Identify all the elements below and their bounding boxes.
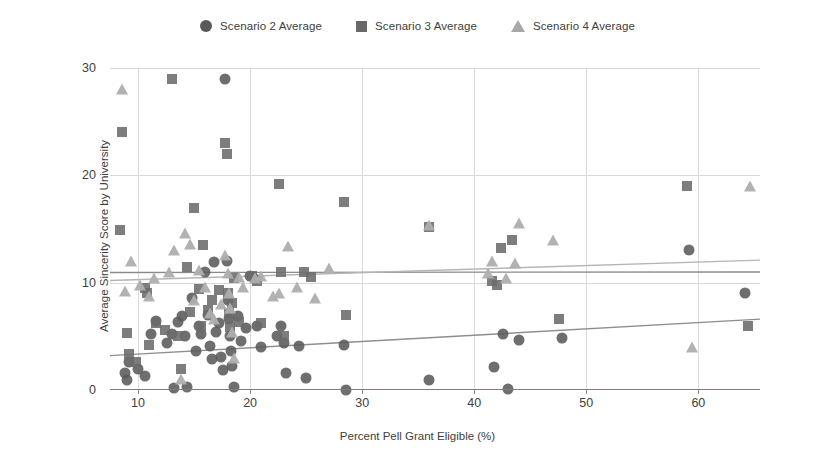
data-point-square xyxy=(160,325,170,335)
x-axis-tick-mark xyxy=(474,390,475,394)
x-axis-tick-label: 20 xyxy=(230,396,270,410)
legend-item-scenario-3: Scenario 3 Average xyxy=(356,20,477,32)
data-point-square xyxy=(220,138,230,148)
data-point-square xyxy=(222,149,232,159)
data-point-square xyxy=(189,203,199,213)
circle-marker-icon xyxy=(200,20,212,32)
data-point-circle xyxy=(498,329,509,340)
data-point-triangle xyxy=(163,266,175,277)
data-point-square xyxy=(196,321,206,331)
x-axis-tick-label: 10 xyxy=(118,396,158,410)
data-point-triangle xyxy=(224,303,236,314)
data-point-triangle xyxy=(291,281,303,292)
x-axis-tick-label: 30 xyxy=(342,396,382,410)
data-point-triangle xyxy=(226,327,238,338)
data-point-square xyxy=(279,331,289,341)
data-point-triangle xyxy=(219,249,231,260)
legend-label-scenario-2: Scenario 2 Average xyxy=(220,20,322,32)
data-point-square xyxy=(306,272,316,282)
data-point-triangle xyxy=(423,219,435,230)
legend-label-scenario-4: Scenario 4 Average xyxy=(533,20,635,32)
x-axis-tick-mark xyxy=(362,390,363,394)
data-point-triangle xyxy=(500,273,512,284)
data-point-circle xyxy=(220,73,231,84)
data-point-triangle xyxy=(222,268,234,279)
data-point-square xyxy=(341,310,351,320)
data-point-square xyxy=(198,240,208,250)
data-point-square xyxy=(185,307,195,317)
data-point-triangle xyxy=(199,281,211,292)
data-point-square xyxy=(167,74,177,84)
data-point-circle xyxy=(684,245,695,256)
data-point-square xyxy=(115,225,125,235)
data-point-circle xyxy=(146,329,157,340)
data-point-square xyxy=(554,314,564,324)
chart-legend: Scenario 2 Average Scenario 3 Average Sc… xyxy=(0,20,835,32)
y-axis-tick-label: 0 xyxy=(56,383,96,397)
data-point-triangle xyxy=(744,181,756,192)
square-marker-icon xyxy=(356,21,367,32)
triangle-marker-icon xyxy=(511,20,525,32)
data-point-triangle xyxy=(116,84,128,95)
x-axis-tick-mark xyxy=(250,390,251,394)
data-point-circle xyxy=(341,385,352,396)
data-point-triangle xyxy=(125,256,137,267)
data-point-triangle xyxy=(134,279,146,290)
data-point-triangle xyxy=(482,268,494,279)
data-point-triangle xyxy=(143,290,155,301)
data-point-triangle xyxy=(228,352,240,363)
data-point-triangle xyxy=(282,241,294,252)
data-point-square xyxy=(117,127,127,137)
legend-label-scenario-3: Scenario 3 Average xyxy=(375,20,477,32)
legend-item-scenario-2: Scenario 2 Average xyxy=(200,20,322,32)
data-point-circle xyxy=(301,373,312,384)
data-point-triangle xyxy=(255,271,267,282)
data-point-circle xyxy=(121,375,132,386)
data-point-triangle xyxy=(509,258,521,269)
data-point-circle xyxy=(424,375,435,386)
data-point-circle xyxy=(294,340,305,351)
data-point-circle xyxy=(514,334,525,345)
data-point-triangle xyxy=(513,217,525,228)
data-point-triangle xyxy=(323,262,335,273)
y-axis-title: Average Sincerity Score by University xyxy=(98,139,110,331)
x-axis-tick-label: 50 xyxy=(566,396,606,410)
y-axis-tick-label: 10 xyxy=(56,276,96,290)
y-axis-tick-label: 30 xyxy=(56,61,96,75)
data-point-circle xyxy=(339,339,350,350)
data-point-square xyxy=(173,331,183,341)
data-point-circle xyxy=(556,333,567,344)
data-point-square xyxy=(176,364,186,374)
plot-area: 0102030102030405060 xyxy=(110,68,760,390)
data-point-triangle xyxy=(193,264,205,275)
x-axis-line xyxy=(110,389,760,391)
data-point-circle xyxy=(489,362,500,373)
data-point-circle xyxy=(256,342,267,353)
x-axis-tick-mark xyxy=(138,390,139,394)
data-point-triangle xyxy=(184,239,196,250)
data-point-triangle xyxy=(208,314,220,325)
data-point-circle xyxy=(280,367,291,378)
data-point-circle xyxy=(276,320,287,331)
data-point-square xyxy=(507,235,517,245)
data-point-triangle xyxy=(168,245,180,256)
data-point-square xyxy=(274,179,284,189)
x-axis-tick-mark xyxy=(586,390,587,394)
data-point-circle xyxy=(139,371,150,382)
data-point-square xyxy=(256,318,266,328)
data-point-circle xyxy=(204,340,215,351)
x-axis-title: Percent Pell Grant Eligible (%) xyxy=(0,430,835,442)
data-point-triangle xyxy=(179,228,191,239)
data-point-triangle xyxy=(547,234,559,245)
x-axis-tick-label: 60 xyxy=(678,396,718,410)
x-axis-tick-mark xyxy=(698,390,699,394)
data-point-triangle xyxy=(223,288,235,299)
data-point-triangle xyxy=(175,374,187,385)
legend-item-scenario-4: Scenario 4 Average xyxy=(511,20,635,32)
data-point-square xyxy=(743,321,753,331)
data-point-square xyxy=(682,181,692,191)
scatter-chart: Scenario 2 Average Scenario 3 Average Sc… xyxy=(0,0,835,471)
y-axis-tick-label: 20 xyxy=(56,168,96,182)
data-point-circle xyxy=(229,381,240,392)
data-point-triangle xyxy=(188,294,200,305)
